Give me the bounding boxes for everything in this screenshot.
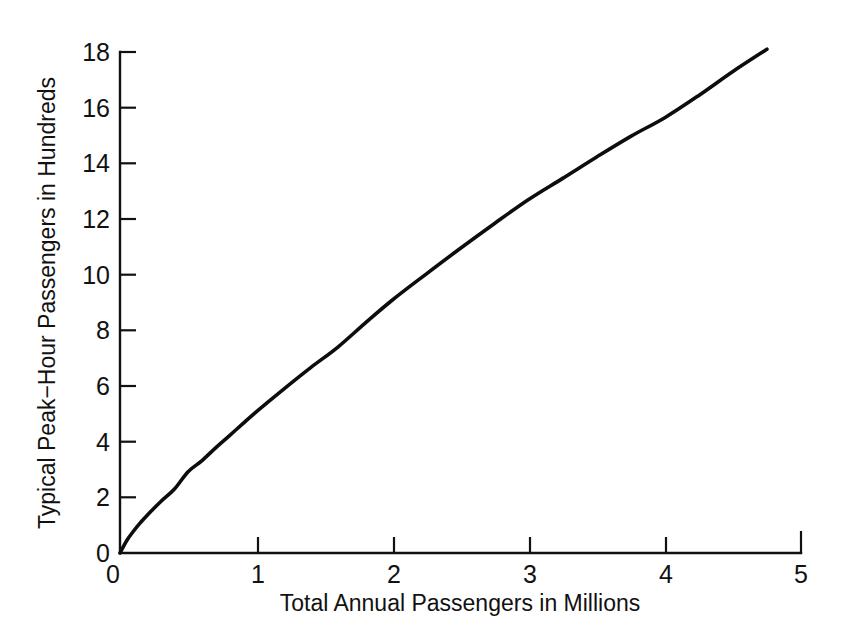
- chart-figure: 18 16 14 12 10 8 6 4 2 0 0 1 2 3 4 5 Tot…: [0, 0, 845, 622]
- y-tick-label-2: 2: [96, 483, 110, 511]
- figure-background: [0, 0, 845, 622]
- x-tick-label-0: 0: [106, 560, 120, 588]
- x-tick-label-2: 2: [387, 560, 401, 588]
- y-tick-label-10: 10: [82, 261, 110, 289]
- y-tick-label-8: 8: [96, 316, 110, 344]
- x-tick-label-5: 5: [794, 560, 808, 588]
- y-tick-label-6: 6: [96, 372, 110, 400]
- x-tick-label-4: 4: [659, 560, 673, 588]
- x-tick-label-3: 3: [523, 560, 537, 588]
- y-tick-label-14: 14: [82, 149, 110, 177]
- y-tick-label-4: 4: [96, 428, 110, 456]
- x-tick-label-1: 1: [251, 560, 265, 588]
- x-axis-title: Total Annual Passengers in Millions: [280, 590, 641, 616]
- y-tick-label-18: 18: [82, 38, 110, 66]
- y-tick-label-16: 16: [82, 94, 110, 122]
- chart-page: 18 16 14 12 10 8 6 4 2 0 0 1 2 3 4 5 Tot…: [0, 0, 845, 622]
- y-tick-label-12: 12: [82, 205, 110, 233]
- y-axis-title: Typical Peak−Hour Passengers in Hundreds: [34, 77, 60, 529]
